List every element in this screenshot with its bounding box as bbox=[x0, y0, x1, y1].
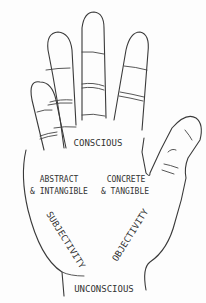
label-tangible: & TANGIBLE bbox=[101, 187, 149, 196]
label-conscious: CONSCIOUS bbox=[74, 138, 123, 148]
label-subjectivity: SUBJECTIVITY bbox=[44, 210, 87, 271]
label-concrete: CONCRETE bbox=[107, 175, 146, 184]
label-objectivity: OBJECTIVITY bbox=[110, 207, 150, 263]
label-unconscious: UNCONSCIOUS bbox=[74, 284, 134, 294]
label-intangible: & INTANGIBLE bbox=[30, 187, 88, 196]
hand-diagram: CONSCIOUS ABSTRACT & INTANGIBLE CONCRETE… bbox=[0, 0, 206, 303]
label-abstract: ABSTRACT bbox=[40, 175, 79, 184]
label-layer: CONSCIOUS ABSTRACT & INTANGIBLE CONCRETE… bbox=[0, 0, 206, 303]
